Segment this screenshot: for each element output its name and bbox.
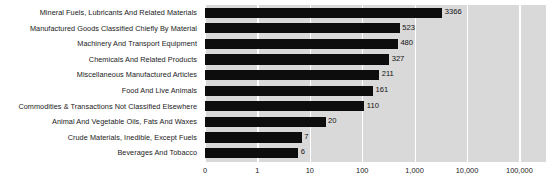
bar (205, 117, 326, 127)
bar-value-label: 7 (302, 132, 309, 143)
category-label: Animal And Vegetable Oils, Fats And Waxe… (52, 114, 197, 130)
x-tick-label: 10 (306, 166, 314, 175)
bar-row: 20 (205, 114, 546, 130)
bar-row: 161 (205, 83, 546, 99)
category-axis-labels: Mineral Fuels, Lubricants And Related Ma… (0, 5, 201, 161)
bar-value-label: 211 (379, 69, 394, 80)
bar (205, 132, 302, 142)
bar (205, 86, 373, 96)
bar-value-label: 161 (373, 85, 388, 96)
bar (205, 8, 442, 18)
bar-row: 7 (205, 130, 546, 146)
category-label: Food And Live Animals (122, 83, 197, 99)
plot-area: 33665234803272111611102076 (205, 5, 546, 162)
bar-value-label: 480 (398, 38, 413, 49)
x-tick-label: 100 (356, 166, 368, 175)
bar-value-label: 327 (389, 54, 404, 65)
x-tick-label: 1 (255, 166, 259, 175)
bar-row: 480 (205, 36, 546, 52)
bar-value-label: 6 (298, 147, 305, 158)
category-label: Beverages And Tobacco (117, 145, 197, 161)
category-label: Commodities & Transactions Not Classifie… (18, 99, 197, 115)
category-label: Machinery And Transport Equipment (77, 36, 197, 52)
bar-row: 211 (205, 67, 546, 83)
bar (205, 39, 398, 49)
category-label: Mineral Fuels, Lubricants And Related Ma… (40, 5, 197, 21)
bar (205, 101, 364, 111)
category-label: Manufactured Goods Classified Chiefly By… (30, 21, 197, 37)
bar-chart: Mineral Fuels, Lubricants And Related Ma… (0, 0, 556, 189)
x-tick-label: 0 (203, 166, 207, 175)
x-tick-label: 10,000 (456, 166, 479, 175)
bar (205, 54, 389, 64)
bar (205, 23, 400, 33)
bar (205, 148, 298, 158)
bar-row: 3366 (205, 5, 546, 21)
category-label: Crude Materials, Inedible, Except Fuels (68, 130, 197, 146)
bar-value-label: 523 (400, 23, 415, 34)
category-label: Miscellaneous Manufactured Articles (77, 67, 197, 83)
bar-value-label: 3366 (442, 7, 461, 18)
x-axis-tick-labels: 01101001,00010,000100,000 (205, 166, 546, 182)
category-label: Chemicals And Related Products (89, 52, 197, 68)
bar-row: 523 (205, 21, 546, 37)
bar-value-label: 20 (326, 116, 337, 127)
x-tick-label: 100,000 (506, 166, 533, 175)
bar-row: 6 (205, 145, 546, 161)
bar-value-label: 110 (364, 101, 379, 112)
bar-row: 110 (205, 99, 546, 115)
bar-row: 327 (205, 52, 546, 68)
x-tick-label: 1,000 (405, 166, 424, 175)
bar (205, 70, 379, 80)
